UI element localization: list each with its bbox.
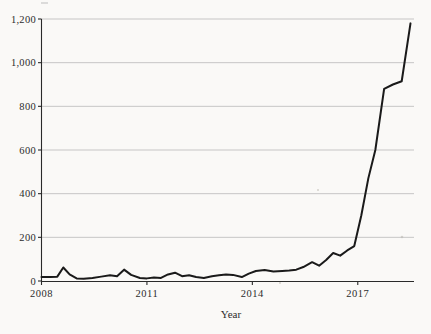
y-tick-label: 600	[19, 145, 36, 156]
x-tick-label: 2008	[30, 288, 53, 299]
line-chart: 02004006008001,0001,200 2008201120142017…	[0, 0, 431, 334]
decorations	[41, 3, 403, 284]
x-tick-label: 2011	[136, 288, 159, 299]
x-tick-label: 2014	[241, 288, 264, 299]
x-axis-title: Year	[221, 308, 242, 320]
x-tick-label: 2017	[346, 288, 369, 299]
y-tick-label: 800	[19, 101, 36, 112]
data-line-series-count	[42, 23, 411, 278]
y-tick-label: 1,000	[11, 57, 36, 68]
chart-svg: 02004006008001,0001,200 2008201120142017…	[0, 0, 431, 334]
y-tick-label: 400	[19, 188, 36, 199]
x-axis-tick-labels: 2008201120142017	[30, 282, 369, 300]
y-tick-label: 0	[30, 276, 36, 287]
y-axis-tick-labels: 02004006008001,0001,200	[11, 14, 42, 287]
gridlines	[42, 19, 415, 237]
paper-speck	[317, 189, 319, 191]
paper-speck	[279, 282, 281, 284]
y-tick-label: 200	[19, 232, 36, 243]
y-tick-label: 1,200	[11, 14, 36, 25]
